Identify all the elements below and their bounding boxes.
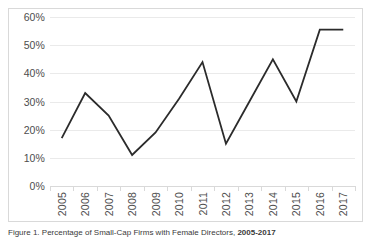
plot-area bbox=[50, 17, 355, 186]
figure-root: 0%10%20%30%40%50%60% 2005200620072008200… bbox=[0, 0, 372, 239]
line-series bbox=[50, 17, 355, 186]
x-tick-label: 2015 bbox=[290, 192, 302, 216]
x-tick-label: 2013 bbox=[243, 192, 255, 216]
x-tick-label: 2012 bbox=[220, 192, 232, 216]
x-tick-label: 2005 bbox=[56, 192, 68, 216]
x-tick-label: 2009 bbox=[150, 192, 162, 216]
x-tick-label: 2016 bbox=[314, 192, 326, 216]
x-tick-mark bbox=[97, 186, 98, 191]
x-tick-mark bbox=[120, 186, 121, 191]
caption-years: 2005-2017 bbox=[237, 228, 275, 237]
series-polyline bbox=[62, 30, 344, 155]
y-tick-label: 40% bbox=[24, 67, 45, 79]
y-tick-label: 60% bbox=[24, 11, 45, 23]
y-tick-label: 10% bbox=[24, 152, 45, 164]
figure-caption: Figure 1. Percentage of Small-Cap Firms … bbox=[8, 228, 364, 238]
x-tick-label: 2017 bbox=[337, 192, 349, 216]
x-tick-label: 2007 bbox=[103, 192, 115, 216]
x-tick-label: 2006 bbox=[79, 192, 91, 216]
x-tick-label: 2008 bbox=[126, 192, 138, 216]
x-tick-label: 2014 bbox=[267, 192, 279, 216]
y-axis: 0%10%20%30%40%50%60% bbox=[9, 9, 49, 223]
x-tick-mark bbox=[261, 186, 262, 191]
x-axis-labels: 2005200620072008200920102011201220132014… bbox=[50, 192, 355, 230]
chart-frame: 0%10%20%30%40%50%60% 2005200620072008200… bbox=[8, 8, 363, 222]
x-tick-mark bbox=[167, 186, 168, 191]
x-tick-mark bbox=[73, 186, 74, 191]
x-tick-mark bbox=[50, 186, 51, 191]
x-tick-mark bbox=[355, 186, 356, 191]
x-tick-mark bbox=[332, 186, 333, 191]
caption-text: Figure 1. Percentage of Small-Cap Firms … bbox=[8, 228, 237, 237]
y-tick-label: 30% bbox=[24, 96, 45, 108]
x-tick-mark bbox=[214, 186, 215, 191]
x-tick-mark bbox=[308, 186, 309, 191]
y-tick-label: 0% bbox=[30, 180, 45, 192]
y-tick-label: 20% bbox=[24, 124, 45, 136]
x-tick-mark bbox=[285, 186, 286, 191]
x-tick-mark bbox=[238, 186, 239, 191]
x-tick-mark bbox=[191, 186, 192, 191]
x-tick-mark bbox=[144, 186, 145, 191]
y-tick-label: 50% bbox=[24, 39, 45, 51]
x-tick-label: 2010 bbox=[173, 192, 185, 216]
x-tick-label: 2011 bbox=[197, 192, 209, 215]
